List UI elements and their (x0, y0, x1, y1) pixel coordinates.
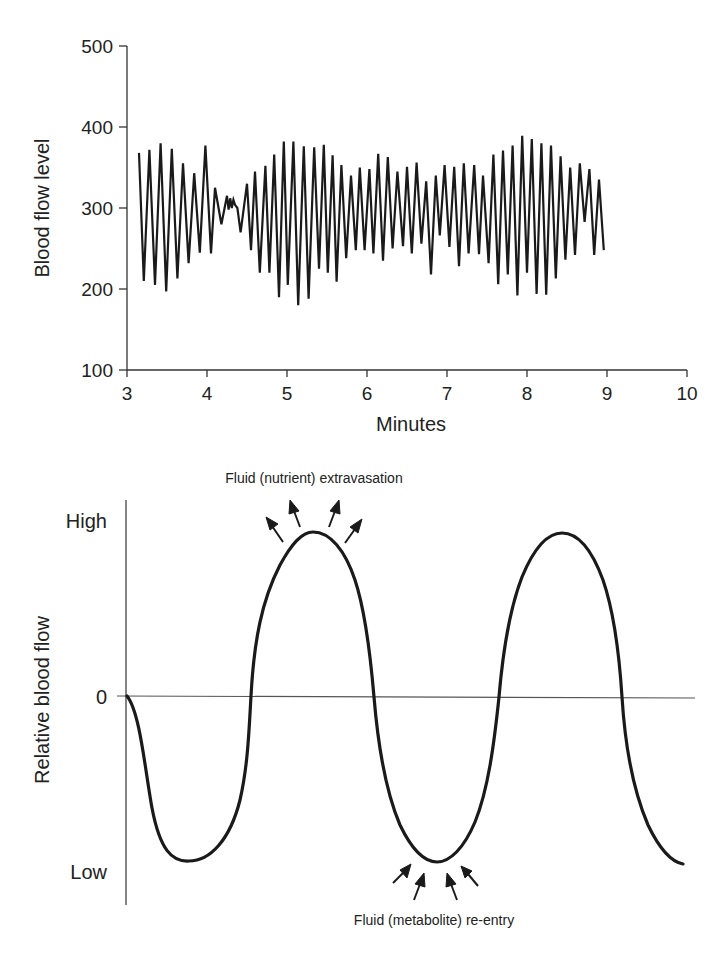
extravasation-label: Fluid (nutrient) extravasation (225, 470, 402, 486)
x-tick-label: 10 (676, 383, 697, 404)
x-tick-label: 4 (202, 383, 213, 404)
bottom-chart: High 0 Low Relative blood flow (31, 470, 695, 928)
top-x-ticks: 345678910 (122, 370, 698, 404)
x-tick-label: 9 (602, 383, 613, 404)
arrow-in-icon (414, 873, 425, 900)
arrow-out-icon (266, 517, 283, 542)
top-axes (127, 46, 687, 370)
label-low: Low (70, 861, 107, 883)
arrow-out-icon (345, 519, 362, 543)
bottom-y-axis-title: Relative blood flow (31, 616, 53, 784)
figure: 500400300200100 345678910 Blood flow lev… (0, 0, 727, 955)
arrow-in-icon (461, 866, 478, 886)
y-tick-label: 500 (81, 36, 113, 57)
arrow-out-icon (329, 500, 340, 527)
y-tick-label: 100 (81, 360, 113, 381)
reentry-label: Fluid (metabolite) re-entry (354, 912, 514, 928)
y-tick-label: 300 (81, 198, 113, 219)
blood-flow-trace (139, 136, 604, 305)
top-y-axis-title: Blood flow level (31, 139, 53, 278)
arrow-out-icon (289, 500, 300, 527)
top-chart: 500400300200100 345678910 Blood flow lev… (31, 36, 698, 435)
top-x-axis-title: Minutes (376, 413, 446, 435)
reentry-arrows (393, 864, 478, 900)
top-y-ticks: 500400300200100 (81, 36, 127, 381)
label-high: High (66, 510, 107, 532)
zero-line (117, 696, 695, 698)
x-tick-label: 8 (522, 383, 533, 404)
y-tick-label: 400 (81, 117, 113, 138)
extravasation-arrows (266, 500, 362, 543)
x-tick-label: 7 (442, 383, 453, 404)
x-tick-label: 3 (122, 383, 133, 404)
arrow-in-icon (393, 864, 411, 883)
label-zero: 0 (96, 686, 107, 708)
y-tick-label: 200 (81, 279, 113, 300)
x-tick-label: 5 (282, 383, 293, 404)
x-tick-label: 6 (362, 383, 373, 404)
arrow-in-icon (446, 873, 457, 900)
